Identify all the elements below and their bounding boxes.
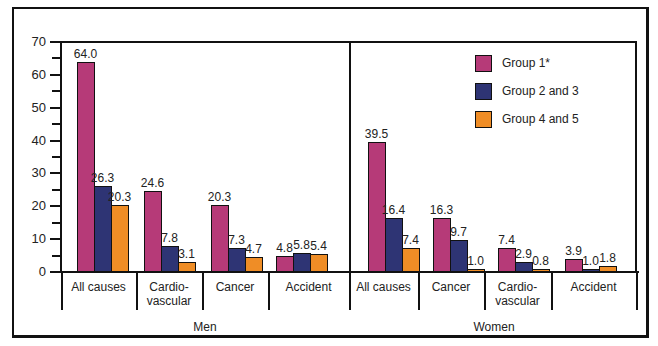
- y-tick-major: [50, 107, 62, 109]
- bar-women-3-series1: [582, 269, 600, 272]
- bar-value-label: 1.0: [456, 254, 496, 268]
- category-label-line: Accident: [551, 280, 636, 294]
- men-women-divider: [349, 41, 351, 272]
- y-tick-minor: [52, 123, 62, 125]
- category-label-line: Cancer: [202, 280, 268, 294]
- category-label-line: Accident: [268, 280, 349, 294]
- y-tick-minor: [52, 222, 62, 224]
- y-tick-minor: [52, 57, 62, 59]
- bar-value-label: 5.4: [299, 239, 339, 253]
- bar-value-label: 26.3: [83, 171, 123, 185]
- y-tick-major: [50, 205, 62, 207]
- category-label-line: Cardio-: [136, 280, 202, 294]
- bar-men-3-series0: [276, 256, 294, 272]
- group-label-women: Women: [444, 320, 544, 334]
- legend-swatch-group23: [475, 83, 492, 100]
- category-label: Cardio-vascular: [484, 280, 551, 308]
- bar-value-label: 7.4: [487, 233, 527, 247]
- bar-women-0-series2: [402, 248, 420, 272]
- bar-value-label: 20.3: [100, 190, 140, 204]
- bar-value-label: 16.3: [422, 203, 462, 217]
- y-tick-major: [50, 74, 62, 76]
- y-tick-major: [50, 140, 62, 142]
- y-tick-major: [50, 238, 62, 240]
- category-label-line: Cancer: [418, 280, 484, 294]
- y-tick-label: 30: [14, 165, 46, 180]
- y-tick-label: 40: [14, 133, 46, 148]
- bar-value-label: 7.8: [150, 231, 190, 245]
- category-label: Cardio-vascular: [136, 280, 202, 308]
- category-label-line: vascular: [136, 294, 202, 308]
- legend-label: Group 4 and 5: [502, 112, 579, 126]
- category-label: Cancer: [202, 280, 268, 294]
- category-label-line: vascular: [484, 294, 551, 308]
- y-tick-label: 60: [14, 67, 46, 82]
- bar-value-label: 20.3: [200, 190, 240, 204]
- bar-value-label: 24.6: [133, 176, 173, 190]
- bar-value-label: 64.0: [66, 47, 106, 61]
- category-label-line: Cardio-: [484, 280, 551, 294]
- bar-value-label: 3.1: [167, 247, 207, 261]
- y-tick-major: [50, 41, 62, 43]
- y-tick-minor: [52, 156, 62, 158]
- legend-label: Group 2 and 3: [502, 84, 579, 98]
- y-tick-label: 0: [14, 264, 46, 279]
- bar-value-label: 9.7: [439, 225, 479, 239]
- y-tick-label: 70: [14, 34, 46, 49]
- bar-men-0-series2: [111, 205, 129, 272]
- bar-men-0-series0: [77, 62, 95, 272]
- y-tick-label: 20: [14, 198, 46, 213]
- bar-men-3-series2: [310, 254, 328, 272]
- category-label: Accident: [268, 280, 349, 294]
- category-label: All causes: [61, 280, 136, 294]
- category-label-line: All causes: [61, 280, 136, 294]
- bar-value-label: 7.4: [391, 233, 431, 247]
- y-tick-minor: [52, 90, 62, 92]
- group-label-men: Men: [155, 320, 255, 334]
- bar-value-label: 16.4: [374, 203, 414, 217]
- y-tick-minor: [52, 255, 62, 257]
- bar-women-1-series2: [467, 269, 485, 272]
- category-label: Cancer: [418, 280, 484, 294]
- bar-men-3-series1: [293, 253, 311, 272]
- bar-value-label: 39.5: [357, 127, 397, 141]
- legend-label: Group 1*: [502, 56, 550, 70]
- y-tick-minor: [52, 189, 62, 191]
- bar-men-1-series2: [178, 262, 196, 272]
- bar-value-label: 1.8: [588, 251, 628, 265]
- y-tick-label: 50: [14, 100, 46, 115]
- bar-women-2-series2: [532, 269, 550, 272]
- y-tick-label: 10: [14, 231, 46, 246]
- category-label: All causes: [349, 280, 418, 294]
- category-separator: [636, 272, 638, 310]
- bar-men-2-series2: [245, 257, 263, 272]
- legend-swatch-group1: [475, 55, 492, 72]
- category-label-line: All causes: [349, 280, 418, 294]
- category-label: Accident: [551, 280, 636, 294]
- bar-women-3-series2: [599, 266, 617, 272]
- legend-swatch-group45: [475, 111, 492, 128]
- y-tick-major: [50, 172, 62, 174]
